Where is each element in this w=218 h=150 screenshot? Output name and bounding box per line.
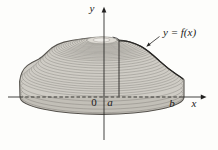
solid-of-revolution-diagram: y x 0 a b y = f(x) bbox=[0, 0, 218, 150]
top-highlight bbox=[93, 38, 110, 42]
y-axis-arrowhead bbox=[102, 7, 107, 13]
x-axis-arrowhead bbox=[201, 95, 207, 100]
b-label: b bbox=[169, 97, 175, 109]
origin-label: 0 bbox=[91, 96, 97, 108]
label-pointer-arrow bbox=[146, 37, 159, 47]
y-axis-label: y bbox=[89, 2, 95, 14]
a-label: a bbox=[107, 96, 113, 108]
base-shading bbox=[18, 96, 186, 116]
function-label: y = f(x) bbox=[162, 26, 196, 39]
figure-canvas: y x 0 a b y = f(x) bbox=[0, 0, 218, 150]
x-axis-label: x bbox=[191, 97, 197, 109]
